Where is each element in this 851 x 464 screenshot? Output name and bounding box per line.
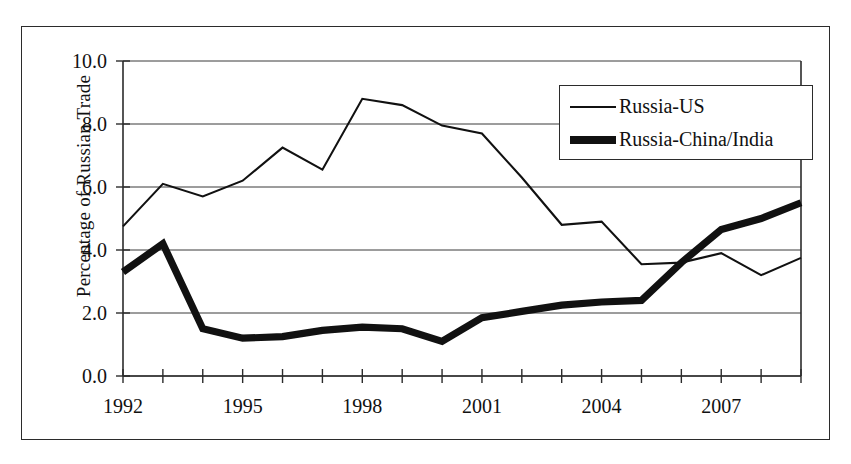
x-tick-label: 2001 [462,395,502,417]
legend-label-russia-us: Russia-US [619,95,705,118]
y-tick-label: 4.0 [82,239,107,261]
chart-legend: Russia-US Russia-China/India [559,85,813,160]
y-tick-label: 8.0 [82,113,107,135]
x-tick-label: 1992 [103,395,143,417]
y-tick-label: 2.0 [82,302,107,324]
legend-item-russia-china-india: Russia-China/India [560,123,812,156]
series-line-russia-china-india [123,203,801,342]
x-tick-label: 2007 [701,395,741,417]
y-tick-label: 10.0 [72,50,107,72]
legend-item-russia-us: Russia-US [560,90,812,123]
chart-outer-border: Percentage of Russian Trade 10.08.06.04.… [21,26,830,440]
legend-line-thick-icon [570,133,616,147]
y-tick-label: 6.0 [82,176,107,198]
legend-label-russia-china-india: Russia-China/India [619,128,773,151]
chart-figure: Percentage of Russian Trade 10.08.06.04.… [0,0,851,464]
legend-line-thin-icon [570,100,616,114]
x-tick-label: 1998 [342,395,382,417]
x-tick-label: 1995 [223,395,263,417]
y-tick-label: 0.0 [82,365,107,387]
x-tick-label: 2004 [582,395,622,417]
